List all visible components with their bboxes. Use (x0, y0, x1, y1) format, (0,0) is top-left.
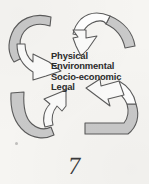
center-label-legal: Legal (51, 82, 133, 92)
top-right-arrow-band (106, 16, 135, 48)
page-number: 7 (0, 152, 149, 180)
center-label-block: Physical Environmental Socio-economic Le… (51, 51, 133, 93)
bottom-left-arrowhead (44, 90, 66, 127)
top-left-arrow-band (9, 15, 51, 62)
bottom-left-arrow (11, 90, 66, 138)
figure-page: Physical Environmental Socio-economic Le… (0, 0, 149, 184)
scan-speck (15, 142, 18, 145)
bottom-right-arrow-band (85, 104, 138, 134)
